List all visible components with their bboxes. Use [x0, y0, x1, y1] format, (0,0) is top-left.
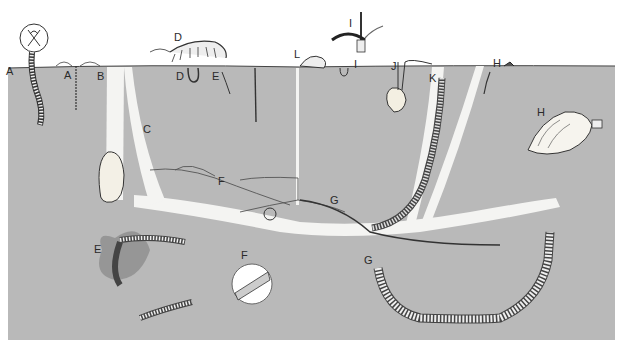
label-d1: D	[174, 32, 182, 43]
label-a1: A	[6, 66, 13, 77]
label-i1: I	[349, 18, 352, 29]
surface-arcs	[56, 62, 100, 66]
label-j: J	[391, 61, 397, 72]
soil-cross-section-figure: A A B C D D E E F F G G H H I I J K L	[0, 0, 622, 348]
label-e2: E	[94, 244, 101, 255]
inset-f	[232, 264, 272, 304]
label-g2: G	[364, 255, 373, 266]
label-h1: H	[493, 58, 501, 69]
label-l: L	[294, 49, 300, 60]
soil-illustration	[0, 0, 622, 348]
label-f2: F	[241, 250, 248, 261]
label-d2: D	[176, 71, 184, 82]
label-a2: A	[64, 70, 71, 81]
organism-h-small	[504, 62, 514, 66]
organism-b-clam	[99, 152, 124, 202]
label-h2: H	[537, 107, 545, 118]
label-g1: G	[330, 195, 339, 206]
organism-d-amphipod	[150, 41, 226, 62]
organism-i-plant	[332, 12, 383, 52]
label-f1: F	[218, 176, 225, 187]
label-b: B	[97, 71, 104, 82]
organism-e-needle	[255, 68, 256, 122]
label-i2: I	[354, 59, 357, 70]
organism-l-snail	[300, 56, 326, 68]
label-c: C	[143, 124, 151, 135]
label-k: K	[429, 73, 436, 84]
label-e1: E	[212, 71, 219, 82]
burrow-l	[296, 68, 299, 205]
